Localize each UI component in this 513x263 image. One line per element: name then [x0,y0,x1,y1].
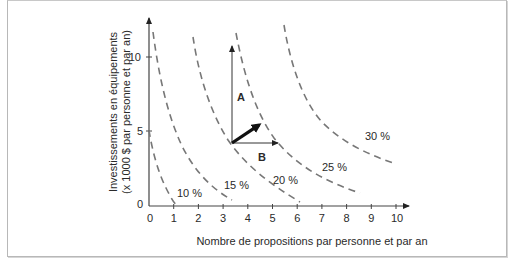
x-axis-title: Nombre de propositions par personne et p… [196,235,427,247]
x-tick-1: 1 [171,212,177,224]
curve-30pct [284,25,393,163]
label-15pct: 15 % [224,179,249,191]
x-tick-7: 7 [319,212,325,224]
x-tick-2: 2 [195,212,201,224]
label-30pct: 30 % [365,130,390,142]
x-tick-10: 10 [391,212,403,224]
x-tick-4: 4 [245,212,251,224]
curve-10pct [149,130,178,207]
label-a: A [237,91,245,103]
x-tick-3: 3 [220,212,226,224]
x-tick-8: 8 [344,212,350,224]
vector-diagram: A B [232,46,278,163]
x-tick-5: 5 [269,212,275,224]
x-tick-6: 6 [294,212,300,224]
y-axis-title-line2: (x 1000 $ par personne et par an) [120,30,132,194]
label-10pct: 10 % [177,187,202,199]
y-axis: 10 5 0 [129,18,152,210]
label-b: B [258,151,266,163]
y-tick-5: 5 [137,125,143,137]
x-tick-0: 0 [147,212,153,224]
x-tick-9: 9 [368,212,374,224]
label-20pct: 20 % [273,174,298,186]
curve-15pct [153,32,232,200]
label-25pct: 25 % [322,161,347,173]
y-axis-title-line1: Investissements en équipements [107,31,119,192]
x-axis: 0 1 2 3 4 5 6 7 8 9 10 [147,204,409,224]
y-tick-0: 0 [137,198,143,210]
indifference-chart: 10 5 0 0 1 2 3 4 5 6 7 8 9 10 [0,0,513,263]
